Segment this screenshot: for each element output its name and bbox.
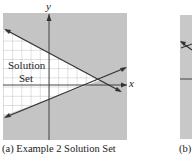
figure-caption-a: (a) Example 2 Solution Set [2,143,116,154]
region-label-line1: Solution [8,59,45,71]
figure-caption-b: (b) [179,143,191,154]
region-label-line2: Set [19,72,33,84]
figure-b-graph [140,0,192,145]
x-axis-label: x [129,77,134,89]
figure-b: (b) [140,0,192,159]
figure-a: y x Solution Set (a) Example 2 Solution … [0,0,140,159]
shaded-region [180,15,192,139]
y-axis-label: y [46,0,51,12]
